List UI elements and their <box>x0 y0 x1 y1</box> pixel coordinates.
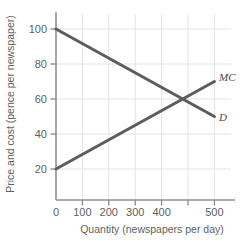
x-tick-label-100: 100 <box>73 206 91 218</box>
x-axis-ticks <box>82 200 214 206</box>
mc-curve-label: MC <box>218 71 236 83</box>
x-tick-label-400: 400 <box>152 206 170 218</box>
y-tick-label-60: 60 <box>35 93 47 105</box>
economics-line-chart: 100 80 60 40 20 0 100 200 300 400 500 MC… <box>0 0 249 240</box>
x-axis-title: Quantity (newspapers per day) <box>80 223 224 235</box>
y-tick-label-80: 80 <box>35 58 47 70</box>
x-tick-label-500: 500 <box>205 206 223 218</box>
y-tick-label-40: 40 <box>35 128 47 140</box>
x-tick-label-0: 0 <box>53 206 59 218</box>
d-curve-label: D <box>218 111 227 123</box>
y-tick-label-20: 20 <box>35 163 47 175</box>
x-tick-label-200: 200 <box>100 206 118 218</box>
y-axis-ticks <box>51 29 57 169</box>
chart-container: 100 80 60 40 20 0 100 200 300 400 500 MC… <box>0 0 249 240</box>
y-axis-title: Price and cost (pence per newspaper) <box>4 15 16 192</box>
y-tick-label-100: 100 <box>29 23 47 35</box>
x-tick-label-300: 300 <box>126 206 144 218</box>
